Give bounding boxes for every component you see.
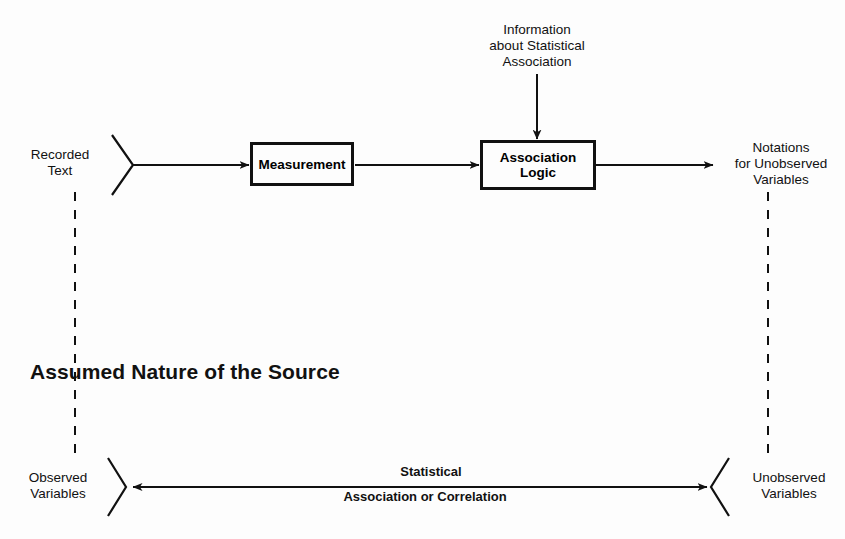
node-measurement[interactable]: Measurement [250,142,354,186]
node-measurement-label: Measurement [258,157,345,172]
observed-variables-bracket-icon [108,458,126,516]
label-notations-for-unobserved-variables: Notations for Unobserved Variables [718,140,844,188]
diagram-title: Assumed Nature of the Source [30,360,340,385]
unobserved-variables-bracket-icon [711,458,729,516]
recorded-text-bracket-icon [112,135,133,195]
node-association-logic-label: Association Logic [483,150,593,180]
diagram-vector-layer [0,0,845,539]
label-statistical: Statistical [370,464,492,479]
label-observed-variables: Observed Variables [12,470,104,502]
label-information-about-statistical-association: Information about Statistical Associatio… [467,22,607,70]
label-unobserved-variables: Unobserved Variables [734,470,844,502]
label-association-or-correlation: Association or Correlation [330,489,520,504]
label-recorded-text: Recorded Text [14,147,106,179]
node-association-logic[interactable]: Association Logic [480,140,596,190]
diagram-canvas: Recorded Text Measurement Association Lo… [0,0,845,539]
